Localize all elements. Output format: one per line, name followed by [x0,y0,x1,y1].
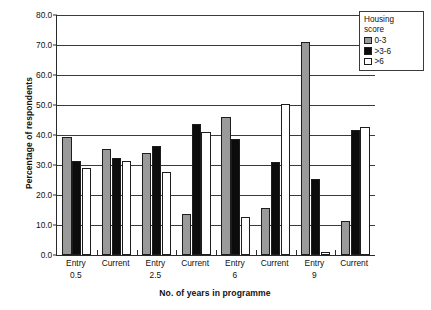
bar-03-current [261,208,270,255]
y-tick-label: 30.0 [36,160,52,170]
x-tick-label-line1: Entry [146,258,166,268]
bar-36-entry-05 [72,161,81,255]
y-tick-label: 0.0 [41,250,52,260]
bar-6-entry-05 [82,168,91,255]
legend-title: Housing score [364,15,420,34]
legend-label: >3-6 [375,47,392,56]
x-tick-mark [176,250,177,255]
legend-swatch-icon [364,58,372,66]
legend-swatch-icon [364,37,372,45]
bar-36-current [351,130,360,255]
bar-group [137,15,177,255]
bar-group [296,15,336,255]
x-axis-title: No. of years in programme [56,288,374,298]
x-tick-label-line1: Entry [305,258,325,268]
bar-03-entry-9 [301,42,310,255]
x-tick-mark [216,250,217,255]
legend-label: 0-3 [375,36,387,45]
y-tick-label: 50.0 [36,100,52,110]
plot-area: 0.010.020.030.040.050.060.070.080.0 [56,15,375,256]
y-tick-label: 10.0 [36,220,52,230]
x-tick-label: Current [255,258,295,270]
bar-36-entry-6 [231,139,240,255]
legend-title-line1: Housing [364,15,394,24]
bar-6-current [281,104,290,255]
legend-label: >6 [375,57,384,66]
x-tick-mark [137,250,138,255]
bar-group [176,15,216,255]
bar-03-entry-05 [62,137,71,255]
bar-36-entry-25 [152,146,161,255]
bar-03-entry-6 [221,117,230,255]
y-tick-label: 70.0 [36,40,52,50]
y-axis-title: Percentage of respondents [24,43,34,223]
bar-03-current [102,149,111,256]
legend: Housing score 0-3>3-6>6 [359,11,424,71]
legend-item-6[interactable]: >6 [364,57,420,66]
bar-6-entry-6 [241,217,250,255]
legend-title-line2: score [364,25,384,34]
bar-group [256,15,296,255]
legend-item-03[interactable]: 0-3 [364,36,420,45]
x-tick-label-line2: 0.5 [56,270,96,282]
y-tick-label: 20.0 [36,190,52,200]
bar-group [216,15,256,255]
x-tick-mark [256,250,257,255]
y-tick-label: 40.0 [36,130,52,140]
bar-6-entry-9 [321,252,330,255]
x-axis-tick-labels: Entry0.5CurrentEntry2.5CurrentEntry6Curr… [56,258,374,292]
bars-layer [57,15,375,255]
x-tick-label-line2: 9 [295,270,335,282]
x-tick-label: Current [96,258,136,270]
bar-6-entry-25 [162,172,171,255]
x-tick-label-line1: Current [340,258,368,268]
x-tick-label: Entry9 [295,258,335,281]
x-tick-mark [335,250,336,255]
bar-group [97,15,137,255]
x-tick-label: Current [175,258,215,270]
x-tick-label-line1: Entry [66,258,86,268]
y-tick-label: 80.0 [36,10,52,20]
bar-03-entry-25 [142,153,151,255]
legend-swatch-icon [364,47,372,55]
bar-6-current [360,127,369,255]
x-tick-label-line1: Entry [225,258,245,268]
x-tick-label-line1: Current [261,258,289,268]
x-tick-label: Entry0.5 [56,258,96,281]
bar-03-current [182,214,191,255]
bar-chart: Percentage of respondents 0.010.020.030.… [0,0,431,310]
x-tick-label: Current [334,258,374,270]
bar-03-current [341,221,350,255]
y-tick-label: 60.0 [36,70,52,80]
bar-group [57,15,97,255]
x-tick-label: Entry6 [215,258,255,281]
x-tick-label: Entry2.5 [136,258,176,281]
bar-36-entry-9 [311,179,320,255]
bar-6-current [122,161,131,255]
x-tick-mark [296,250,297,255]
bar-36-current [271,162,280,255]
x-tick-mark [97,250,98,255]
x-tick-label-line2: 6 [215,270,255,282]
bar-36-current [112,158,121,255]
x-tick-label-line1: Current [102,258,130,268]
bar-6-current [201,132,210,255]
x-tick-label-line2: 2.5 [136,270,176,282]
x-tick-label-line1: Current [181,258,209,268]
legend-item-36[interactable]: >3-6 [364,47,420,56]
legend-items: 0-3>3-6>6 [364,36,420,66]
bar-36-current [192,124,201,255]
